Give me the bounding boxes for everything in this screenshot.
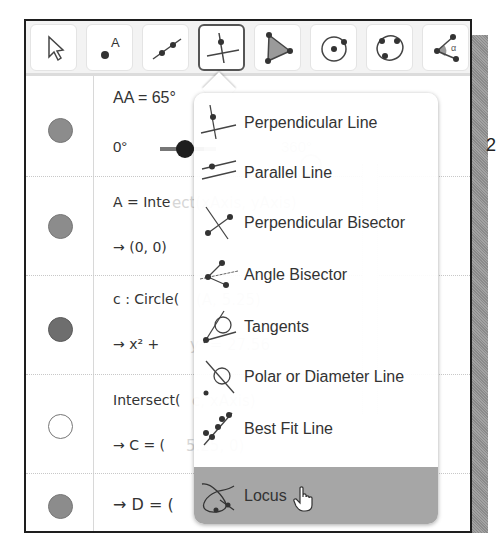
circle-three-points-icon <box>371 29 409 67</box>
svg-text:A: A <box>111 35 120 50</box>
angle-bisector-icon <box>198 255 238 295</box>
menu-item-perpendicular-bisector[interactable]: Perpendicular Bisector <box>194 201 438 245</box>
menu-item-tangents[interactable]: Tangents <box>194 305 438 349</box>
line-icon <box>147 29 185 67</box>
parallel-line-icon <box>198 153 238 193</box>
menu-item-perpendicular-line[interactable]: Perpendicular Line <box>194 101 438 145</box>
definition[interactable]: c : Circle( <box>113 291 179 307</box>
slider-knob[interactable] <box>176 140 194 158</box>
tool-perpendicular-line[interactable] <box>198 24 245 71</box>
tool-point[interactable]: A <box>86 24 133 71</box>
value: → D = ( <box>113 495 174 514</box>
svg-text:α: α <box>451 43 456 53</box>
perpendicular-line-icon <box>198 103 238 143</box>
slider-definition[interactable]: AA = 65° <box>113 89 176 107</box>
visibility-toggle[interactable] <box>48 317 73 342</box>
value: → x² + <box>113 336 159 352</box>
polygon-icon <box>259 29 297 67</box>
offscreen-text-fragment: 2 <box>486 135 496 156</box>
tool-circle-center[interactable] <box>310 24 357 71</box>
arrow-cursor-icon <box>35 29 73 67</box>
menu-item-polar-line[interactable]: Polar or Diameter Line <box>194 355 438 399</box>
visibility-toggle[interactable] <box>48 118 73 143</box>
tool-angle[interactable]: α <box>422 24 469 71</box>
slider-min-label: 0° <box>113 138 127 155</box>
tool-polygon[interactable] <box>254 24 301 71</box>
value: → C = ( <box>113 437 165 453</box>
toolbar: A α <box>26 21 470 76</box>
menu-item-locus[interactable]: Locus <box>194 467 438 524</box>
tangents-icon <box>198 307 238 347</box>
locus-icon <box>198 476 238 516</box>
visibility-toggle[interactable] <box>48 494 73 519</box>
angle-icon: α <box>427 29 465 67</box>
definition[interactable]: A = Inte <box>113 194 170 210</box>
polar-line-icon <box>198 357 238 397</box>
menu-item-angle-bisector[interactable]: Angle Bisector <box>194 253 438 297</box>
hand-cursor-icon <box>293 486 315 512</box>
visibility-toggle[interactable] <box>48 214 73 239</box>
perpendicular-bisector-icon <box>198 203 238 243</box>
tool-move[interactable] <box>30 24 77 71</box>
best-fit-line-icon <box>198 409 238 449</box>
menu-item-best-fit-line[interactable]: Best Fit Line <box>194 407 438 451</box>
point-icon: A <box>91 29 129 67</box>
definition[interactable]: Intersect( <box>113 392 180 408</box>
circle-center-icon <box>315 29 353 67</box>
menu-item-parallel-line[interactable]: Parallel Line <box>194 151 438 195</box>
tool-dropdown-menu: Perpendicular Line Parallel Line Perpend… <box>194 93 438 524</box>
visibility-toggle[interactable] <box>48 414 73 439</box>
perpendicular-line-icon <box>203 29 241 67</box>
tool-line[interactable] <box>142 24 189 71</box>
value: → (0, 0) <box>113 239 167 255</box>
tool-circle-three-points[interactable] <box>366 24 413 71</box>
